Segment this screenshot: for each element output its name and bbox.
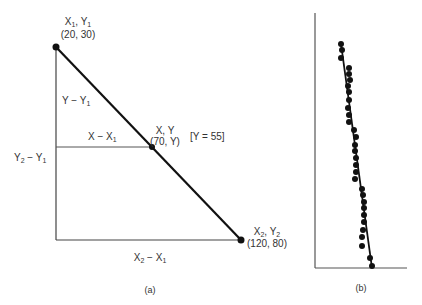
point-2-label: X2, Y2 [254, 226, 281, 237]
scatter-dot [352, 148, 358, 154]
scatter-dot [359, 234, 365, 240]
panel-a-caption: (a) [145, 285, 156, 296]
scatter-dot [360, 192, 366, 198]
scatter-dot [345, 83, 351, 89]
diagram-canvas [0, 0, 422, 305]
scatter-dot [346, 89, 352, 95]
scatter-dot [360, 227, 366, 233]
point-1-dot [53, 44, 60, 51]
scatter-dot [346, 112, 352, 118]
scatter-dot [346, 65, 352, 71]
scatter-dot [361, 205, 367, 211]
y-equals-note: [Y = 55] [190, 131, 225, 142]
scatter-dot [352, 176, 358, 182]
scatter-dot [346, 119, 352, 125]
scatter-dot [361, 219, 367, 225]
point-2-dot [238, 237, 245, 244]
panel-a-lines [53, 44, 245, 244]
scatter-dot [351, 127, 357, 133]
scatter-dot [346, 97, 352, 103]
x-minus-x1-label: X − X1 [88, 131, 117, 142]
scatter-dot [359, 186, 365, 192]
scatter-dot [369, 263, 375, 269]
scatter-dot [353, 134, 359, 140]
scatter-dot [353, 155, 359, 161]
panel-b-caption: (b) [356, 283, 367, 294]
point-1-coords: (20, 30) [61, 29, 95, 40]
point-1-label: X1, Y1 [65, 16, 92, 27]
scatter-dot [353, 162, 359, 168]
scatter-dot [361, 199, 367, 205]
scatter-dot [352, 142, 358, 148]
scatter-dot [338, 55, 344, 61]
diagonal-line [56, 47, 241, 240]
scatter-dot [339, 47, 345, 53]
panel-b [315, 13, 407, 269]
scatter-dot [347, 77, 353, 83]
y2-minus-y1-label: Y2 − Y1 [14, 152, 46, 163]
point-mid-coords: (70, Y) [150, 136, 180, 147]
scatter-dot [353, 169, 359, 175]
point-mid-label: X, Y [156, 125, 175, 136]
point-2-coords: (120, 80) [247, 238, 287, 249]
scatter-dot [359, 243, 365, 249]
x2-minus-x1-label: X2 − X1 [134, 252, 167, 263]
scatter-dot [367, 255, 373, 261]
scatter-dot [345, 105, 351, 111]
scatter-dot [346, 71, 352, 77]
scatter-dot [338, 41, 344, 47]
y-minus-y1-label: Y − Y1 [62, 95, 90, 106]
scatter-dot [361, 212, 367, 218]
